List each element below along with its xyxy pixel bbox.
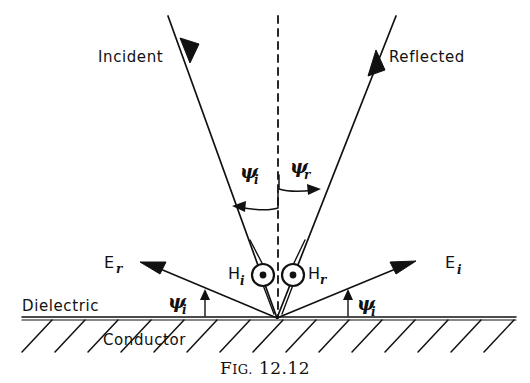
reflected-label: Reflected [389, 48, 465, 66]
reflected-ray-arrowhead [368, 50, 385, 76]
lower-left-angle-arrowhead [200, 289, 210, 300]
h-reflected-subscript: r [320, 273, 328, 287]
lower-left-angle-label: ψ i [168, 290, 187, 317]
conductor-label: Conductor [103, 331, 186, 349]
caption-prefix-first: F [220, 358, 232, 378]
dielectric-label: Dielectric [22, 297, 99, 315]
h-reflected-symbol: H [308, 264, 320, 283]
conductor-hatching [22, 320, 514, 352]
h-incident-symbol: H [228, 264, 240, 283]
caption-prefix-rest: IG. [232, 362, 253, 377]
figure-reflection-at-conductor: Incident Reflected Dielectric Conductor … [0, 0, 530, 383]
e-incident-arrowhead [390, 261, 416, 274]
upper-right-psi-subscript: r [304, 168, 312, 182]
e-reflected-symbol: E [104, 253, 114, 272]
e-incident-subscript: i [457, 263, 462, 277]
lower-right-angle-label: ψ i [357, 292, 376, 319]
e-reflected-label: E r [104, 253, 124, 276]
h-reflected-label: H r [308, 264, 328, 287]
e-reflected-arrowhead [140, 262, 166, 274]
upper-right-angle-arrowhead [307, 184, 321, 195]
h-incident-circled-dot-icon [252, 264, 274, 286]
figure-caption: FIG.12.12 [0, 358, 530, 378]
incident-label: Incident [98, 48, 163, 66]
e-incident-symbol: E [445, 253, 455, 272]
h-incident-label: H i [228, 264, 245, 288]
lower-left-psi-subscript: i [182, 303, 187, 317]
h-incident-stem-lower [263, 285, 274, 314]
lower-right-psi-subscript: i [371, 305, 376, 319]
h-reflected-circled-dot-icon [282, 264, 304, 286]
h-incident-subscript: i [240, 274, 245, 288]
e-incident-label: E i [445, 253, 462, 277]
upper-left-angle-label: ψ i [240, 160, 259, 187]
figure-canvas: Incident Reflected Dielectric Conductor … [0, 0, 530, 383]
e-reflected-subscript: r [116, 262, 124, 276]
upper-right-angle-label: ψ r [290, 155, 312, 182]
upper-left-psi-subscript: i [254, 173, 259, 187]
caption-number: 12.12 [259, 358, 310, 378]
